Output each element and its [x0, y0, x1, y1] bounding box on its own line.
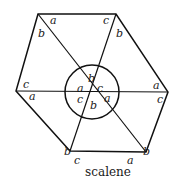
angle-label: b: [143, 145, 150, 158]
angle-label: b: [64, 145, 71, 158]
outer-angle-labels: a b c b c a a c b c a b: [23, 14, 163, 167]
angle-label: a: [29, 90, 36, 103]
angle-label: b: [116, 27, 123, 40]
angle-label: a: [104, 92, 111, 105]
angle-label: a: [50, 14, 57, 27]
angle-label: c: [103, 14, 109, 27]
angle-label: c: [97, 82, 103, 95]
diagonal-l-r: [16, 91, 168, 92]
angle-label: c: [77, 93, 83, 106]
angle-label: c: [157, 93, 163, 106]
angle-label: b: [38, 27, 45, 40]
angle-label: a: [153, 79, 160, 92]
scalene-tessellation-diagram: a b c b c a a c b c a b b a c c a b scal…: [0, 0, 176, 180]
angle-label: b: [88, 72, 95, 85]
angle-label: b: [90, 99, 97, 112]
angle-label: c: [74, 154, 80, 167]
diagram-caption: scalene: [85, 165, 131, 179]
